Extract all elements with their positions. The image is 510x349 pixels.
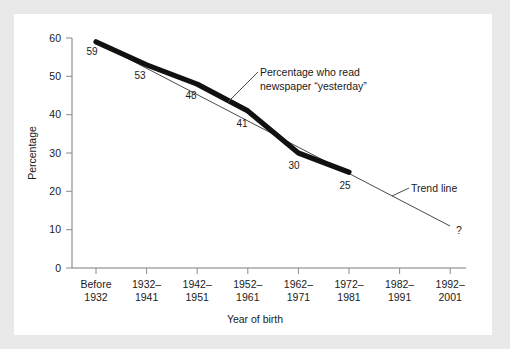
line-chart: 0 10 20 30 40 50 60 Percentage Before 19… (0, 0, 510, 349)
y-tick-label-30: 30 (49, 147, 61, 159)
x-label-1-line2: 1932 (84, 291, 108, 303)
x-label-7-line1: 1982– (385, 278, 414, 290)
point-label-5: 30 (288, 160, 300, 171)
x-label-8-line2: 2001 (439, 291, 463, 303)
y-axis-ticks (66, 38, 72, 268)
trend-annotation-leader (392, 188, 409, 196)
data-series-line (96, 42, 349, 172)
x-axis-ticks (96, 268, 450, 274)
x-label-4-line1: 1952– (233, 278, 262, 290)
x-label-2-line2: 1941 (135, 291, 159, 303)
y-axis-title: Percentage (26, 126, 38, 180)
point-label-4: 41 (236, 118, 248, 129)
series-annotation-line2: newspaper “yesterday” (260, 80, 367, 92)
x-label-3-line2: 1951 (186, 291, 210, 303)
x-label-6-line2: 1981 (337, 291, 361, 303)
x-label-5-line1: 1962– (284, 278, 313, 290)
unknown-future-marker: ? (456, 224, 462, 236)
point-label-3: 48 (185, 90, 197, 101)
point-label-6: 25 (339, 180, 351, 191)
chart-figure: 0 10 20 30 40 50 60 Percentage Before 19… (0, 0, 510, 349)
y-tick-label-50: 50 (49, 70, 61, 82)
x-label-6-line1: 1972– (334, 278, 363, 290)
point-label-2: 53 (134, 70, 146, 81)
point-label-1: 59 (86, 46, 98, 57)
series-annotation-line1: Percentage who read (260, 66, 360, 78)
x-label-8-line1: 1992– (436, 278, 465, 290)
y-tick-label-60: 60 (49, 32, 61, 44)
y-tick-label-20: 20 (49, 185, 61, 197)
x-axis-labels: Before 1932 1932– 1941 1942– 1951 1952– … (81, 278, 465, 303)
series-annotation-leader (228, 72, 258, 102)
x-label-4-line2: 1961 (236, 291, 260, 303)
y-tick-label-40: 40 (49, 108, 61, 120)
y-tick-label-10: 10 (49, 223, 61, 235)
x-label-1-line1: Before (81, 278, 112, 290)
trend-annotation-label: Trend line (411, 182, 457, 194)
x-label-3-line1: 1942– (183, 278, 212, 290)
x-label-5-line2: 1971 (287, 291, 311, 303)
x-label-7-line2: 1991 (388, 291, 412, 303)
x-label-2-line1: 1932– (132, 278, 161, 290)
y-tick-label-0: 0 (55, 262, 61, 274)
x-axis-title: Year of birth (227, 313, 283, 325)
